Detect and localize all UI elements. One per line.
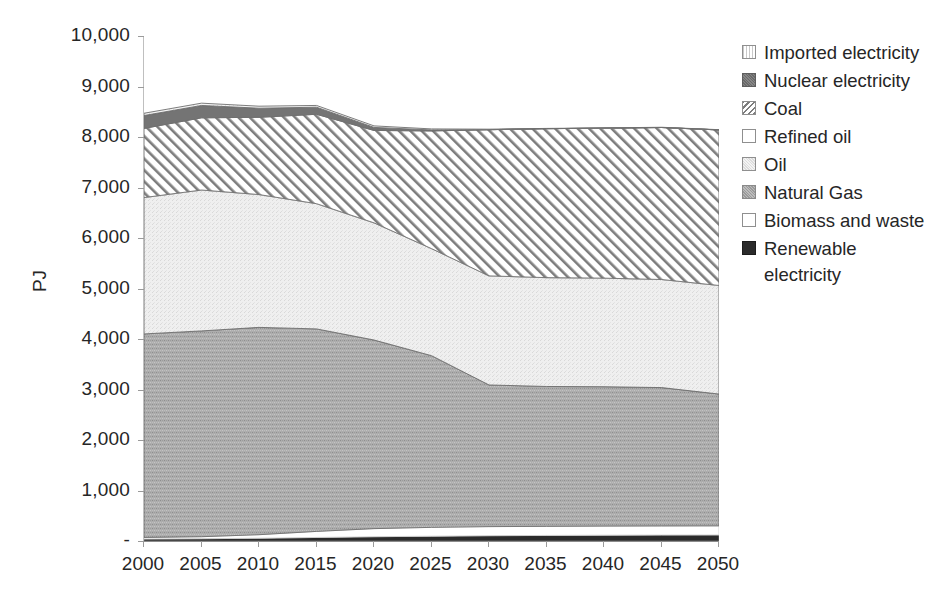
x-tick-mark bbox=[603, 541, 604, 547]
legend-item-coal[interactable]: Coal bbox=[742, 96, 928, 122]
legend-item-label: Natural Gas bbox=[764, 180, 928, 206]
legend-swatch-icon bbox=[742, 129, 756, 143]
x-tick-mark bbox=[373, 541, 374, 547]
legend-item-label: Oil bbox=[764, 152, 928, 178]
x-tick-mark bbox=[431, 541, 432, 547]
x-tick-mark bbox=[201, 541, 202, 547]
y-tick-mark bbox=[138, 137, 144, 138]
y-tick-mark bbox=[138, 87, 144, 88]
y-tick-mark bbox=[138, 188, 144, 189]
legend-swatch-icon bbox=[742, 73, 756, 87]
y-tick-mark bbox=[138, 238, 144, 239]
y-tick-label: 2,000 bbox=[38, 429, 130, 448]
x-axis: 2000200520102015202020252030203520402045… bbox=[143, 541, 718, 601]
chart-legend: Imported electricityNuclear electricityC… bbox=[742, 40, 928, 290]
y-axis: PJ -1,0002,0003,0004,0005,0006,0007,0008… bbox=[20, 0, 130, 612]
legend-swatch-icon bbox=[742, 45, 756, 59]
x-tick-mark bbox=[661, 541, 662, 547]
legend-item-oil[interactable]: Oil bbox=[742, 152, 928, 178]
y-tick-mark bbox=[138, 339, 144, 340]
legend-item-imported-electricity[interactable]: Imported electricity bbox=[742, 40, 928, 66]
legend-item-label: Imported electricity bbox=[764, 40, 928, 66]
legend-item-refined-oil[interactable]: Refined oil bbox=[742, 124, 928, 150]
x-tick-mark bbox=[258, 541, 259, 547]
x-tick-mark bbox=[143, 541, 144, 547]
x-tick-label: 2050 bbox=[683, 553, 753, 575]
legend-item-biomass-and-waste[interactable]: Biomass and waste bbox=[742, 208, 928, 234]
legend-item-renewable-electricity[interactable]: Renewable electricity bbox=[742, 236, 928, 288]
legend-swatch-icon bbox=[742, 241, 756, 255]
legend-swatch-icon bbox=[742, 157, 756, 171]
y-tick-label: 3,000 bbox=[38, 379, 130, 398]
plot-area bbox=[143, 36, 719, 542]
y-tick-label: 8,000 bbox=[38, 126, 130, 145]
legend-item-natural-gas[interactable]: Natural Gas bbox=[742, 180, 928, 206]
legend-item-label: Nuclear electricity bbox=[764, 68, 928, 94]
x-tick-mark bbox=[488, 541, 489, 547]
y-tick-label: 1,000 bbox=[38, 480, 130, 499]
legend-swatch-icon bbox=[742, 213, 756, 227]
y-tick-mark bbox=[138, 289, 144, 290]
y-tick-label: 5,000 bbox=[38, 278, 130, 297]
legend-swatch-icon bbox=[742, 101, 756, 115]
legend-item-nuclear-electricity[interactable]: Nuclear electricity bbox=[742, 68, 928, 94]
legend-item-label: Coal bbox=[764, 96, 928, 122]
y-tick-mark bbox=[138, 36, 144, 37]
y-tick-mark bbox=[138, 440, 144, 441]
x-tick-mark bbox=[316, 541, 317, 547]
x-tick-mark bbox=[718, 541, 719, 547]
y-tick-mark bbox=[138, 491, 144, 492]
area-series-canvas bbox=[144, 36, 719, 541]
legend-swatch-icon bbox=[742, 185, 756, 199]
y-tick-label: 6,000 bbox=[38, 227, 130, 246]
y-tick-label: 9,000 bbox=[38, 76, 130, 95]
legend-item-label: Renewable electricity bbox=[764, 236, 928, 288]
y-tick-label: 10,000 bbox=[38, 25, 130, 44]
legend-item-label: Refined oil bbox=[764, 124, 928, 150]
stacked-area-chart: PJ -1,0002,0003,0004,0005,0006,0007,0008… bbox=[0, 0, 932, 612]
x-tick-mark bbox=[546, 541, 547, 547]
y-tick-label: 4,000 bbox=[38, 328, 130, 347]
y-tick-label: - bbox=[38, 530, 130, 549]
y-tick-mark bbox=[138, 390, 144, 391]
legend-item-label: Biomass and waste bbox=[764, 208, 928, 234]
y-tick-label: 7,000 bbox=[38, 177, 130, 196]
